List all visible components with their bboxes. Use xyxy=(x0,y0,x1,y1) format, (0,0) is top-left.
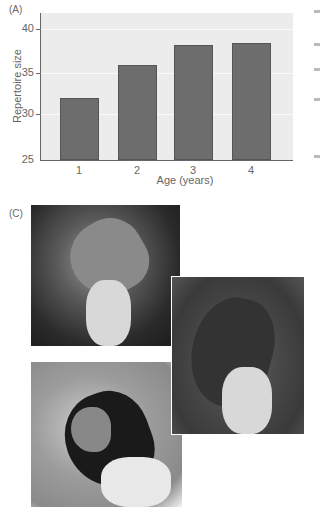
gridline-40 xyxy=(40,29,293,30)
x-tick-label: 4 xyxy=(231,164,271,176)
clipped-fragment xyxy=(314,98,320,101)
bar-chart: (A) 25 30 35 40 1 2 3 4 Age (years) Repe… xyxy=(0,0,300,195)
x-tick-label: 1 xyxy=(59,164,99,176)
clipped-fragment xyxy=(314,68,320,71)
bar-age-3 xyxy=(174,45,213,160)
bird-breast-shape xyxy=(71,407,111,452)
clipped-fragment xyxy=(314,43,320,46)
bird-photo-3 xyxy=(31,362,182,507)
x-axis-title: Age (years) xyxy=(135,174,235,186)
x-axis xyxy=(40,160,293,161)
panel-label-a: (A) xyxy=(9,4,22,15)
bird-photo-1 xyxy=(31,205,180,346)
y-tick-label: 25 xyxy=(10,153,34,165)
bird-photo-2 xyxy=(171,276,305,435)
y-tick-label: 40 xyxy=(10,22,34,34)
hand-shape xyxy=(86,280,131,346)
clipped-fragment xyxy=(314,155,320,158)
y-tick xyxy=(36,73,40,74)
y-axis-title: Repertoire size xyxy=(11,36,23,136)
bar-age-1 xyxy=(60,98,99,160)
bar-age-4 xyxy=(232,43,271,160)
y-tick xyxy=(36,114,40,115)
y-axis xyxy=(40,13,41,161)
panel-label-c: (C) xyxy=(9,208,23,219)
hand-shape xyxy=(222,367,272,434)
hand-shape xyxy=(101,457,171,507)
clipped-fragment xyxy=(314,10,320,13)
bar-age-2 xyxy=(118,65,157,160)
y-tick xyxy=(36,29,40,30)
